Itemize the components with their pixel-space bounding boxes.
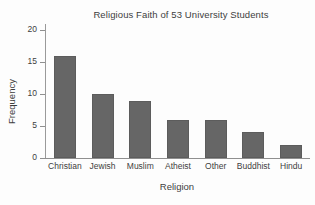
bar <box>167 120 189 158</box>
bar <box>129 101 151 158</box>
y-tick-label: 5 <box>12 121 37 130</box>
y-tick-label: 15 <box>12 57 37 66</box>
chart-title: Religious Faith of 53 University Student… <box>52 9 310 20</box>
y-tick-mark <box>40 126 45 127</box>
x-tick-label: Hindu <box>272 161 310 171</box>
bar <box>242 132 264 158</box>
y-tick-label: 0 <box>12 153 37 162</box>
y-tick-label: 10 <box>12 89 37 98</box>
x-tick-label: Atheist <box>159 161 197 171</box>
y-tick-mark <box>40 94 45 95</box>
bar <box>92 94 114 158</box>
bar <box>54 56 76 158</box>
bar <box>280 145 302 158</box>
bar <box>205 120 227 158</box>
x-axis-line <box>45 158 310 159</box>
y-tick-mark <box>40 158 45 159</box>
x-tick-label: Muslim <box>121 161 159 171</box>
x-tick-label: Other <box>197 161 235 171</box>
y-tick-mark <box>40 30 45 31</box>
x-tick-label: Jewish <box>84 161 122 171</box>
chart-figure: Religious Faith of 53 University Student… <box>0 0 315 205</box>
y-tick-label: 20 <box>12 25 37 34</box>
bar-series <box>46 24 310 158</box>
y-tick-mark <box>40 62 45 63</box>
x-tick-label: Christian <box>46 161 84 171</box>
x-tick-label: Buddhist <box>235 161 273 171</box>
x-axis-title: Religion <box>44 181 310 192</box>
